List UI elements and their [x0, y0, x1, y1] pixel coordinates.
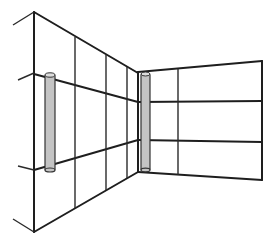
left-post-bottom [45, 168, 55, 172]
right-wall-lower-rail [138, 140, 262, 142]
corner-post-top [141, 72, 150, 76]
left-wall-top-edge [34, 12, 138, 73]
right-wall-bottom-edge [138, 172, 262, 180]
upper-rail-extension-stub [18, 73, 34, 80]
corner-post-bottom [141, 168, 150, 172]
left-post-top [45, 73, 55, 77]
bottom-extension-stub [13, 219, 34, 232]
left-post [45, 73, 55, 172]
left-wall-bottom-edge [34, 172, 138, 232]
right-wall [138, 61, 262, 180]
top-extension-stub [13, 12, 34, 25]
corner-post [141, 72, 150, 172]
left-wall [13, 12, 138, 232]
left-post-body [45, 75, 55, 170]
right-wall-top-edge [138, 61, 262, 72]
corner-post-body [141, 74, 150, 170]
lower-rail-extension-stub [18, 166, 34, 170]
wall-corner-diagram [0, 0, 275, 247]
right-wall-upper-rail [138, 101, 262, 102]
